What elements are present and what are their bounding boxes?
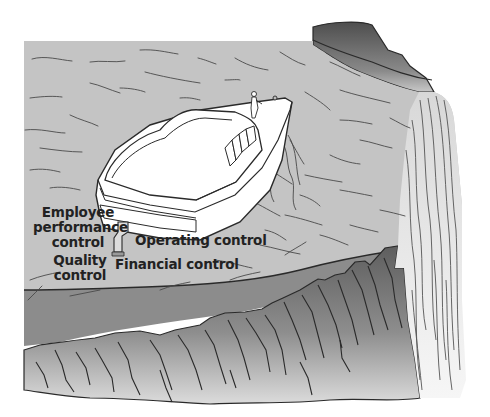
operating-control-label: Operating control (135, 233, 267, 248)
label-line: control (33, 235, 123, 250)
quality-control-label: Quality control (50, 253, 110, 283)
boat-waterfall-illustration: Employee performance control Operating c… (0, 0, 490, 417)
employee-performance-control-label: Employee performance control (33, 205, 123, 250)
label-line: Employee (33, 205, 123, 220)
label-line: Quality (50, 253, 110, 268)
label-line: control (50, 268, 110, 283)
label-line: performance (33, 220, 123, 235)
financial-control-label: Financial control (115, 257, 239, 272)
